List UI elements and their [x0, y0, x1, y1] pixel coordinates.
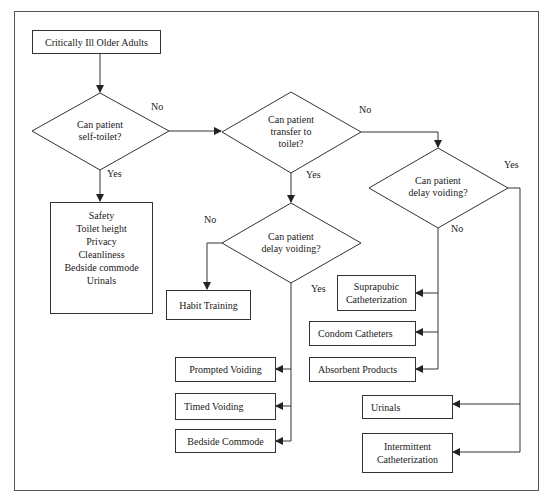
decision-self-toilet-label: Can patient self-toilet?: [77, 119, 123, 143]
outcome-self-toilet-measures: Safety Toilet height Privacy Cleanliness…: [50, 202, 153, 314]
outcome-suprapubic-catheterization: Suprapubic Catheterization: [337, 275, 416, 311]
measure-item: Privacy: [86, 235, 117, 248]
edge-label-d1-no: No: [151, 101, 163, 113]
decision-delay-right-label: Can patient delay voiding?: [408, 175, 467, 199]
measure-item: Bedside commode: [64, 261, 138, 274]
edge-label-d3-yes: Yes: [504, 159, 519, 171]
edge-label-d4-no: No: [204, 214, 216, 226]
measure-item: Cleanliness: [78, 248, 124, 261]
decision-transfer-label: Can patient transfer to toilet?: [268, 114, 314, 150]
outcome-intermittent-catheterization: Intermittent Catheterization: [362, 433, 453, 473]
edge-label-d3-no: No: [451, 223, 463, 235]
decision-delay-middle-label: Can patient delay voiding?: [261, 231, 320, 255]
edge-label-d2-yes: Yes: [306, 169, 321, 181]
outcome-urinals: Urinals: [362, 395, 453, 419]
edge-label-d4-yes: Yes: [311, 283, 326, 295]
measure-item: Safety: [89, 209, 115, 222]
outcome-timed-voiding: Timed Voiding: [175, 393, 276, 420]
edge-label-d1-yes: Yes: [107, 168, 122, 180]
measure-item: Toilet height: [76, 222, 127, 235]
edge-label-d2-no: No: [359, 104, 371, 116]
start-node: Critically Ill Older Adults: [32, 30, 161, 54]
outcome-absorbent-products: Absorbent Products: [309, 357, 416, 382]
outcome-condom-catheters: Condom Catheters: [309, 321, 416, 346]
measure-item: Urinals: [87, 274, 116, 287]
outcome-prompted-voiding: Prompted Voiding: [175, 357, 276, 382]
outcome-bedside-commode: Bedside Commode: [175, 429, 276, 453]
start-label: Critically Ill Older Adults: [45, 36, 148, 49]
outcome-habit-training: Habit Training: [166, 290, 251, 320]
